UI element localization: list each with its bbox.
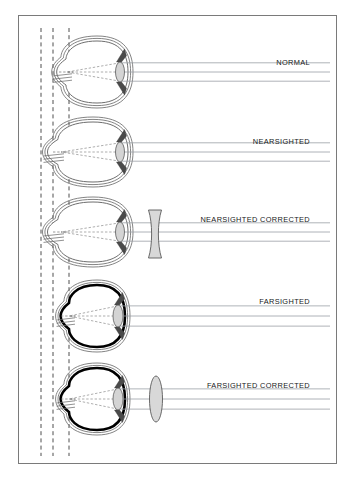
eye-diagram-nearsighted (43, 117, 331, 187)
label-farsighted: FARSIGHTED (0, 297, 310, 306)
label-normal: NORMAL (0, 58, 310, 67)
eye-diagram-farsighted (56, 280, 330, 352)
crystalline-lens (113, 305, 123, 327)
crystalline-lens (113, 388, 123, 410)
crystalline-lens (116, 222, 125, 242)
eye-refraction-figure: NORMALNEARSIGHTEDNEARSIGHTED CORRECTEDFA… (0, 0, 352, 483)
eye-diagram-normal (52, 36, 330, 108)
eye-diagram-farsighted-corrected (56, 363, 330, 435)
label-nearsighted-corrected: NEARSIGHTED CORRECTED (0, 215, 310, 224)
label-farsighted-corrected: FARSIGHTED CORRECTED (0, 381, 310, 390)
diagram-canvas (0, 0, 352, 483)
label-nearsighted: NEARSIGHTED (0, 137, 310, 146)
eye-diagram-nearsighted-corrected (43, 197, 331, 267)
